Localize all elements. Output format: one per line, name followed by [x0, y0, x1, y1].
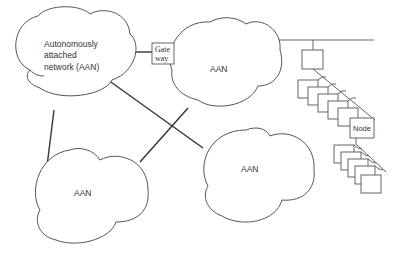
cloud-aan-4 — [204, 128, 314, 222]
node-label: Node — [353, 124, 371, 133]
node-group-bottom — [334, 138, 386, 193]
gateway-label-line-2: way — [155, 54, 168, 63]
node-box — [302, 50, 323, 69]
cloud-aan-3 — [35, 148, 148, 243]
aan-2-label: AAN — [210, 64, 227, 74]
link-aan2-aan3 — [140, 108, 188, 162]
aan-1-label-line-1: Autonomously — [44, 39, 99, 49]
gateway: Gate way — [152, 43, 174, 64]
aan-4-label: AAN — [241, 164, 258, 174]
cloud-aan-2 — [170, 18, 282, 106]
aan-3-label: AAN — [74, 188, 91, 198]
aan-1-label-line-2: attached — [44, 50, 77, 60]
node-group-top: Node — [298, 50, 375, 138]
aan-1-label-line-3: network (AAN) — [44, 62, 99, 72]
gateway-label-line-1: Gate — [155, 45, 171, 54]
network-diagram: Autonomously attached network (AAN) AAN … — [0, 0, 404, 256]
